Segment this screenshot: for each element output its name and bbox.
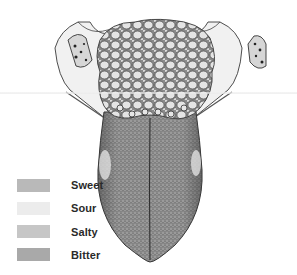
- legend-label: Sour: [71, 202, 96, 214]
- papillae-region: [97, 19, 215, 119]
- sour-swatch: [17, 202, 50, 215]
- legend-label: Salty: [71, 226, 98, 238]
- tongue-body: [98, 112, 227, 262]
- median-sulcus: [150, 118, 151, 260]
- scan-line: [0, 92, 297, 94]
- legend-item-sour: Sour: [17, 201, 107, 215]
- tonsil-right: [248, 36, 266, 69]
- taste-legend: Sweet Sour Salty Bitter: [17, 178, 107, 271]
- bitter-swatch: [17, 248, 50, 261]
- legend-label: Sweet: [71, 179, 103, 191]
- sour-zone-right: [191, 150, 201, 176]
- legend-item-bitter: Bitter: [17, 248, 107, 262]
- salty-swatch: [17, 225, 50, 238]
- legend-item-salty: Salty: [17, 225, 107, 239]
- legend-label: Bitter: [71, 249, 100, 261]
- legend-item-sweet: Sweet: [17, 178, 107, 192]
- sweet-swatch: [17, 179, 50, 192]
- sour-zone-left: [99, 150, 111, 180]
